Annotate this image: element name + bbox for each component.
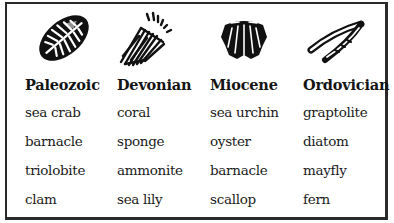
list-item: sea urchin bbox=[210, 104, 279, 120]
column-ordovician: Ordovician graptolite diatom mayfly fern bbox=[303, 4, 394, 217]
list-item: sea lily bbox=[117, 191, 162, 207]
list-item: graptolite bbox=[303, 104, 367, 120]
column-paleozoic: Paleozoic sea crab barnacle triolobite c… bbox=[25, 4, 117, 217]
fossil-table-frame: Paleozoic sea crab barnacle triolobite c… bbox=[5, 2, 388, 220]
column-devonian: Devonian coral sponge ammonite sea lily bbox=[117, 4, 209, 217]
column-header: Devonian bbox=[117, 76, 191, 93]
column-header: Miocene bbox=[210, 76, 278, 93]
column-header: Paleozoic bbox=[25, 76, 100, 93]
list-item: coral bbox=[117, 104, 150, 120]
list-item: barnacle bbox=[25, 133, 82, 149]
list-item: diatom bbox=[303, 133, 349, 149]
list-item: oyster bbox=[210, 133, 251, 149]
column-miocene: Miocene sea urchin oyster barnacle scall… bbox=[210, 4, 302, 217]
column-header: Ordovician bbox=[303, 76, 389, 93]
coral-fossil-icon bbox=[117, 4, 209, 72]
list-item: triolobite bbox=[25, 162, 85, 178]
list-item: fern bbox=[303, 191, 330, 207]
list-item: ammonite bbox=[117, 162, 183, 178]
list-item: clam bbox=[25, 191, 57, 207]
scallop-shell-fossil-icon bbox=[210, 4, 302, 72]
graptolite-fossil-icon bbox=[303, 4, 394, 72]
list-item: sponge bbox=[117, 133, 164, 149]
list-item: scallop bbox=[210, 191, 256, 207]
list-item: barnacle bbox=[210, 162, 267, 178]
list-item: sea crab bbox=[25, 104, 81, 120]
sea-crab-fossil-icon bbox=[25, 4, 117, 72]
list-item: mayfly bbox=[303, 162, 347, 178]
